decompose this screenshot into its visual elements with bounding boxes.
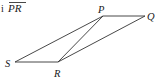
vertex-label-q: Q <box>147 11 155 22</box>
vertex-label-p: P <box>97 4 105 15</box>
edges <box>15 16 145 62</box>
cut-off-text-fragment: i <box>1 3 4 14</box>
diagonal-pr <box>58 16 103 62</box>
edge-qr <box>58 16 145 62</box>
edge-sp <box>15 16 103 62</box>
vertex-label-r: R <box>53 68 61 79</box>
segment-label-pr: PR <box>7 2 22 14</box>
parallelogram-diagram: i PR P Q S R <box>0 0 160 80</box>
vertex-label-s: S <box>5 58 11 69</box>
